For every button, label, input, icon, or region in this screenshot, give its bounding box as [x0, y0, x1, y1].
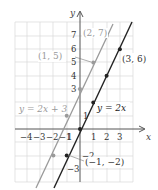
annotation-m1-m2: (−1, −2): [85, 157, 124, 167]
annotation-2-7: (2, 7): [83, 28, 107, 38]
y-tick-3: 3: [71, 84, 76, 94]
y-tick-4: 4: [71, 71, 76, 81]
equation-line1: y = 2x + 3: [18, 104, 67, 114]
chart: x y 7 6 5 4 3 1 1 −2 −3 −4 −3 −2 −1 1: [0, 0, 158, 190]
x-tick-m2: −2: [46, 132, 59, 142]
x-tick-3: 3: [117, 132, 122, 142]
y-tick-m3: −3: [67, 164, 80, 174]
y-tick-5: 5: [71, 57, 76, 67]
y-tick-1: 1: [83, 111, 88, 121]
y-axis-label: y: [69, 8, 76, 18]
y-tick-6: 6: [71, 44, 76, 54]
y-tick-7: 7: [71, 30, 76, 40]
x-tick-labels: −4 −3 −2 −1 1 2 3: [20, 132, 122, 142]
x-tick-1: 1: [91, 132, 96, 142]
leader-1-5: [75, 57, 91, 62]
x-tick-m4: −4: [20, 132, 33, 142]
annotation-1-5: (1, 5): [38, 51, 62, 61]
x-tick-m1: −1: [59, 132, 72, 142]
equation-line2: y = 2x: [96, 103, 126, 113]
x-tick-2: 2: [104, 132, 109, 142]
x-axis-label: x: [146, 132, 151, 142]
annotation-3-6: (3, 6): [122, 54, 146, 64]
x-tick-m3: −3: [33, 132, 46, 142]
